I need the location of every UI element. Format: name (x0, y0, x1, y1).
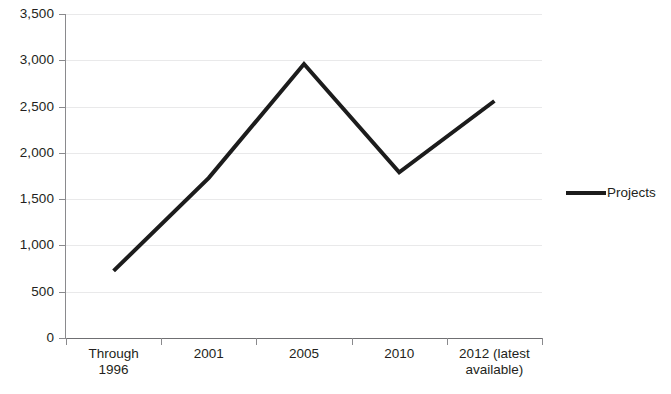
y-axis-tick (59, 60, 66, 61)
gridline (66, 14, 542, 15)
y-axis-tick (59, 107, 66, 108)
x-axis-tick (161, 338, 162, 345)
x-axis-tick (542, 338, 543, 345)
y-axis-label: 3,500 (0, 7, 54, 21)
plot-area (66, 14, 542, 338)
y-axis-tick (59, 292, 66, 293)
gridline (66, 107, 542, 108)
y-axis-label: 500 (0, 285, 54, 299)
x-axis-line (65, 338, 543, 339)
x-axis-tick (256, 338, 257, 345)
y-axis-label: 2,000 (0, 146, 54, 160)
x-axis-tick (352, 338, 353, 345)
x-axis-tick (447, 338, 448, 345)
y-axis-tick (59, 14, 66, 15)
y-axis-line (65, 14, 66, 339)
x-axis-label: 2012 (latestavailable) (437, 346, 552, 378)
line-chart: 05001,0001,5002,0002,5003,0003,500 Throu… (0, 0, 671, 394)
legend: Projects (566, 186, 656, 200)
legend-swatch-projects (566, 191, 606, 195)
y-axis-tick (59, 153, 66, 154)
y-axis-label: 0 (0, 331, 54, 345)
y-axis-label: 1,500 (0, 192, 54, 206)
y-axis-label: 3,000 (0, 53, 54, 67)
gridline (66, 245, 542, 246)
x-axis-tick (66, 338, 67, 345)
y-axis-label: 1,000 (0, 238, 54, 252)
y-axis-label: 2,500 (0, 100, 54, 114)
gridline (66, 292, 542, 293)
legend-label-projects: Projects (607, 186, 656, 200)
y-axis-tick (59, 199, 66, 200)
y-axis-tick (59, 245, 66, 246)
gridline (66, 199, 542, 200)
gridline (66, 153, 542, 154)
y-axis-tick (59, 338, 66, 339)
gridline (66, 60, 542, 61)
